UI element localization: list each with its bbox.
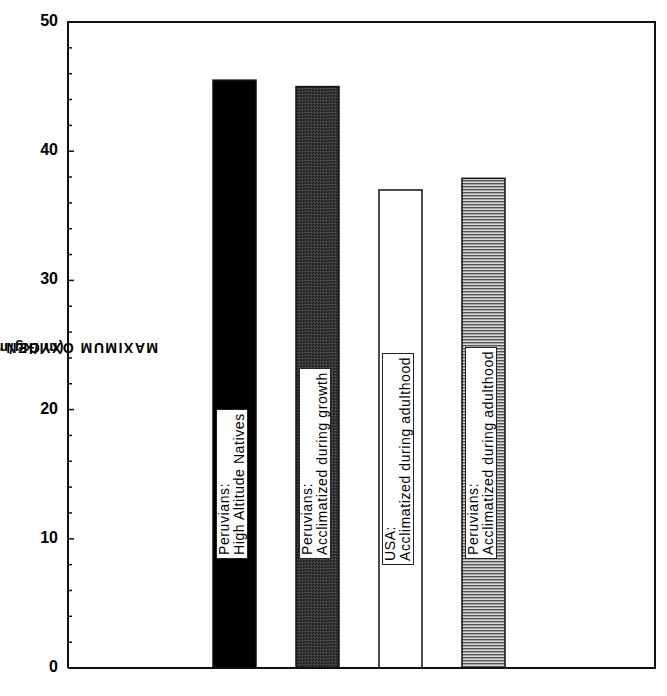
bar-label-group: USA: <box>383 357 398 561</box>
y-tick-label: 10 <box>24 529 58 547</box>
y-tick-label: 0 <box>24 658 58 676</box>
y-tick-label: 40 <box>24 141 58 159</box>
bar-label-group: Peruvians: <box>300 372 315 555</box>
y-tick-label: 30 <box>24 270 58 288</box>
plot-frame <box>68 22 655 668</box>
bar-label-group: Peruvians: <box>217 413 232 555</box>
bar-label: Peruvians:High Altitude Natives <box>216 409 248 559</box>
axes <box>68 22 655 668</box>
plot-area <box>0 0 667 696</box>
bar-label-condition: Acclimatized during adulthood <box>481 351 496 555</box>
bar-label: Peruvians:Acclimatized during adulthood <box>465 347 497 559</box>
y-tick-label: 50 <box>24 12 58 30</box>
bar-label: USA:Acclimatized during adulthood <box>382 353 414 565</box>
bar-label-condition: High Altitude Natives <box>232 413 247 555</box>
y-tick-label: 20 <box>24 400 58 418</box>
bar-label-group: Peruvians: <box>466 351 481 555</box>
bar-label-condition: Acclimatized during adulthood <box>398 357 413 561</box>
bar <box>213 80 256 668</box>
bar-label-condition: Acclimatized during growth <box>315 372 330 555</box>
oxygen-consumption-bar-chart: MAXIMUM OXYGEN CONSUMPTION (ml/kg/min) 0… <box>0 0 667 696</box>
bar-label: Peruvians:Acclimatized during growth <box>299 368 331 559</box>
bars <box>213 80 505 668</box>
